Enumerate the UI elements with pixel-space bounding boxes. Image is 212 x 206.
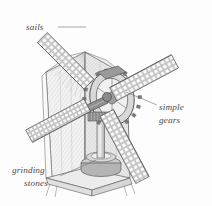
millstone-body: [81, 163, 121, 177]
label-sails: sails: [26, 22, 44, 32]
label-simple-gears-line1: simple: [159, 102, 184, 112]
windmill-illustration: sails simple gears grinding stones: [0, 0, 212, 206]
windmill-diagram-figure: sails simple gears grinding stones: [0, 0, 212, 206]
label-grinding-stones-line1: grinding: [12, 165, 45, 175]
label-simple-gears-line2: gears: [159, 115, 180, 125]
sail-hub: [103, 93, 112, 102]
label-grinding-stones-line2: stones: [24, 178, 48, 188]
